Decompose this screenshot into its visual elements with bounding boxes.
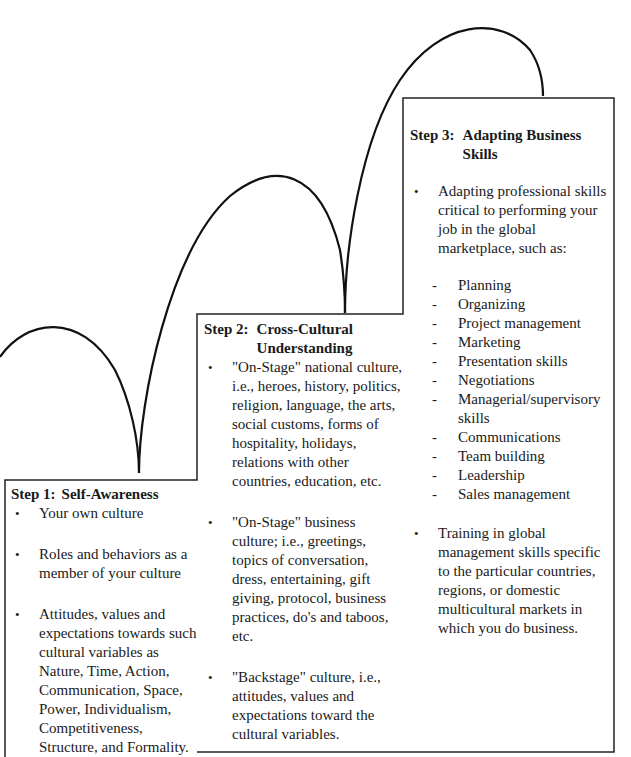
skill-item: Planning <box>428 276 614 295</box>
step1-number: Step 1: <box>11 485 56 504</box>
step3-bullets: Adapting professional skills critical to… <box>410 182 614 638</box>
step3-name: Adapting Business Skills <box>463 126 614 164</box>
step1-bullets: Your own culture Roles and behaviors as … <box>11 504 197 757</box>
step1-bullet: Your own culture <box>11 504 197 523</box>
skill-item: Managerial/supervisory skills <box>428 390 614 428</box>
skill-item: Communications <box>428 428 614 447</box>
step1-panel: Step 1: Self-Awareness Your own culture … <box>11 485 197 757</box>
skills-list: Planning Organizing Project management M… <box>428 276 614 504</box>
step1-name: Self-Awareness <box>62 485 159 504</box>
skill-item: Negotiations <box>428 371 614 390</box>
step2-bullet: "On-Stage" business culture; i.e., greet… <box>204 513 404 646</box>
step2-title: Step 2: Cross-Cultural Understanding <box>204 320 404 358</box>
skill-item: Project management <box>428 314 614 333</box>
step2-name: Cross-Cultural Understanding <box>257 320 404 358</box>
skill-item: Sales management <box>428 485 614 504</box>
step2-panel: Step 2: Cross-Cultural Understanding "On… <box>204 320 404 744</box>
step2-number: Step 2: <box>204 320 249 358</box>
step2-bullet: "Backstage" culture, i.e., attitudes, va… <box>204 668 404 744</box>
step2-bullet: "On-Stage" national culture, i.e., heroe… <box>204 358 404 491</box>
skill-item: Leadership <box>428 466 614 485</box>
step1-title: Step 1: Self-Awareness <box>11 485 197 504</box>
step3-bullet: Training in global management skills spe… <box>410 524 614 638</box>
skill-item: Presentation skills <box>428 352 614 371</box>
arc-into-step1 <box>0 327 139 473</box>
step3-panel: Step 3: Adapting Business Skills Adaptin… <box>410 126 614 638</box>
step3-bullet-text: Adapting professional skills critical to… <box>438 183 606 256</box>
skill-item: Marketing <box>428 333 614 352</box>
step2-bullets: "On-Stage" national culture, i.e., heroe… <box>204 358 404 744</box>
skill-item: Team building <box>428 447 614 466</box>
step1-bullet: Roles and behaviors as a member of your … <box>11 545 197 583</box>
step3-bullet: Adapting professional skills critical to… <box>410 182 614 504</box>
step3-title: Step 3: Adapting Business Skills <box>410 126 614 164</box>
step3-number: Step 3: <box>410 126 455 164</box>
step1-bullet: Attitudes, values and expectations towar… <box>11 605 197 757</box>
skill-item: Organizing <box>428 295 614 314</box>
